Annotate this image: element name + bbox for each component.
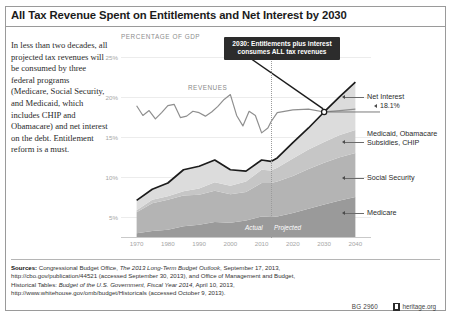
label-social-security: Social Security: [367, 174, 415, 183]
actual-projected-divider: [271, 50, 272, 238]
y-tick-25: 25%: [106, 54, 118, 61]
x-tick-2030: 2030: [317, 240, 331, 247]
chart-svg: [121, 50, 371, 238]
actual-label: Actual: [245, 224, 263, 231]
leader-medicaid: [345, 142, 364, 143]
x-tick-1980: 1980: [161, 240, 175, 247]
heritage-logo-icon: [393, 303, 400, 311]
infographic-page: All Tax Revenue Spent on Entitlements an…: [0, 0, 453, 323]
intro-paragraph: In less than two decades, all projected …: [11, 40, 108, 156]
x-tick-2040: 2040: [348, 240, 362, 247]
revenues-label: REVENUES: [188, 84, 227, 91]
label-medicaid: Medicaid, Obamacare Subsidies, CHIP: [367, 130, 451, 148]
label-crossing-value: 18.1%: [380, 102, 400, 109]
source-1a: Congressional Budget Office,: [37, 264, 120, 271]
source-line-2: http://cbo.gov/publication/44521 (access…: [11, 272, 431, 280]
leader-net-interest: [345, 97, 364, 98]
source-line-1: Sources: Congressional Budget Office, Th…: [11, 264, 431, 272]
sources-block: Sources: Congressional Budget Office, Th…: [11, 264, 431, 297]
y-tick-15: 15%: [106, 134, 118, 141]
x-tick-2010: 2010: [255, 240, 269, 247]
footer-bar: BG 2960 heritage.org: [11, 303, 440, 312]
leader-medicare: [345, 213, 364, 214]
y-tick-10: 10%: [106, 174, 118, 181]
x-tick-1970: 1970: [130, 240, 144, 247]
y-tick-20: 20%: [106, 94, 118, 101]
x-tick-2020: 2020: [286, 240, 300, 247]
projected-label: Projected: [274, 224, 301, 231]
arrow-medicaid-icon: [342, 140, 345, 144]
bg-number: BG 2960: [352, 303, 378, 310]
source-line-4: http://www.whitehouse.gov/omb/budget/His…: [11, 289, 431, 297]
chart-plot-area: 25% 20% 15% 10% 5% Actual Projected 1970…: [121, 50, 371, 238]
source-line-3: Historical Tables: Budget of the U.S. Go…: [11, 281, 431, 289]
arrow-crossing-icon: [374, 104, 377, 108]
label-net-interest: Net Interest: [367, 93, 404, 102]
arrow-medicare-icon: [342, 211, 345, 215]
heritage-site-label: heritage.org: [402, 303, 436, 310]
x-tick-2000: 2000: [223, 240, 237, 247]
leader-social-security: [345, 178, 364, 179]
arrow-social-security-icon: [342, 176, 345, 180]
source-1-italic: The 2013 Long-Term Budget Outlook: [120, 264, 220, 271]
sources-label: Sources:: [11, 264, 37, 271]
source-1b: , September 17, 2013,: [220, 264, 280, 271]
source-3b: , April 10, 2013,: [192, 281, 234, 288]
footer-divider: [11, 259, 440, 260]
source-3a: Historical Tables:: [11, 281, 59, 288]
source-3-italic: Budget of the U.S. Government, Fiscal Ye…: [59, 281, 193, 288]
callout-box: 2030: Entitlements plus interest consume…: [224, 37, 340, 60]
y-axis-title: PERCENTAGE OF GDP: [121, 33, 200, 40]
label-medicare: Medicare: [367, 209, 397, 218]
x-axis-line: [121, 237, 371, 238]
y-tick-5: 5%: [109, 214, 118, 221]
crossing-point-marker: [322, 109, 327, 114]
arrow-net-interest-icon: [342, 95, 345, 99]
page-title: All Tax Revenue Spent on Entitlements an…: [11, 9, 431, 21]
x-tick-1990: 1990: [192, 240, 206, 247]
